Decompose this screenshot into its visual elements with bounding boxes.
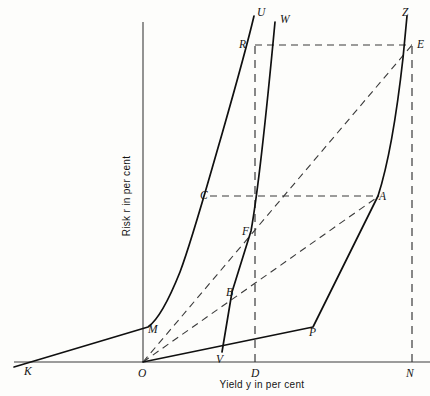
point-label-F: F bbox=[241, 225, 250, 237]
point-label-R: R bbox=[238, 38, 246, 50]
point-label-W: W bbox=[280, 13, 291, 25]
point-label-A: A bbox=[378, 190, 387, 202]
ray-O-F-E bbox=[143, 45, 412, 362]
y-axis-label: Risk r in per cent bbox=[121, 156, 132, 236]
diagram-canvas: K O M V D P N B F C A R E U W Z Risk r i… bbox=[0, 0, 430, 396]
point-label-O: O bbox=[138, 367, 147, 379]
point-label-B: B bbox=[226, 286, 233, 298]
curve-VBFW bbox=[222, 22, 275, 352]
point-label-M: M bbox=[147, 323, 159, 335]
point-label-U: U bbox=[257, 6, 266, 18]
risk-yield-diagram: K O M V D P N B F C A R E U W Z Risk r i… bbox=[0, 0, 430, 396]
point-label-K: K bbox=[23, 365, 33, 377]
point-label-V: V bbox=[216, 353, 225, 365]
point-label-E: E bbox=[416, 38, 424, 50]
point-label-N: N bbox=[405, 367, 415, 379]
point-label-D: D bbox=[250, 367, 260, 379]
x-axis-label: Yield y in per cent bbox=[220, 379, 305, 390]
point-label-Z: Z bbox=[402, 6, 409, 18]
curve-OPAZ bbox=[143, 16, 407, 362]
point-label-P: P bbox=[308, 326, 316, 338]
point-label-C: C bbox=[200, 189, 208, 201]
curve-KMU bbox=[14, 16, 254, 367]
